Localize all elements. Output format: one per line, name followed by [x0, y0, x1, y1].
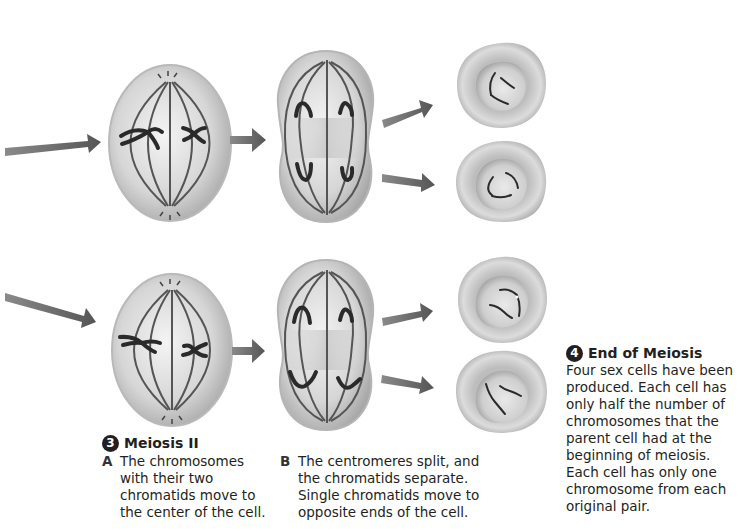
- arrow-top-2b: [382, 173, 435, 192]
- arrow-bottom-2a: [382, 303, 433, 326]
- incoming-arrow-bottom: [5, 293, 96, 328]
- step3-block: 3 Meiosis II A The chromosomes with thei…: [102, 435, 272, 521]
- text-line: parent cell had at the: [566, 430, 755, 447]
- text-line: opposite ends of the cell.: [298, 504, 479, 521]
- arrow-top-1: [230, 128, 266, 152]
- metaphase-cell-top: [109, 65, 231, 221]
- metaphase-cell-bottom: [112, 274, 232, 426]
- text-line: The chromosomes: [120, 453, 265, 470]
- step3b-description: B The centromeres split, and the chromat…: [280, 453, 490, 521]
- substep-letter-a: A: [102, 453, 120, 521]
- text-line: chromosomes that the: [566, 413, 755, 430]
- step4-heading: 4 End of Meiosis: [566, 345, 755, 362]
- text-line: Each cell has only one: [566, 464, 755, 481]
- text-line: produced. Each cell has: [566, 379, 755, 396]
- text-line: only half the number of: [566, 396, 755, 413]
- sex-cell-2: [456, 141, 546, 222]
- text-line: the chromatids separate.: [298, 470, 479, 487]
- text-line: Single chromatids move to: [298, 487, 479, 504]
- sex-cell-4: [456, 351, 547, 433]
- arrow-top-2a: [382, 100, 433, 128]
- text-line: The centromeres split, and: [298, 453, 479, 470]
- sex-cell-3: [458, 257, 547, 343]
- text-line: chromatids move to: [120, 487, 265, 504]
- step-number-badge: 4: [566, 345, 583, 362]
- step3b-block: B The centromeres split, and the chromat…: [280, 453, 490, 521]
- arrow-bottom-1: [232, 339, 265, 363]
- text-line: chromosome from each: [566, 481, 755, 498]
- text-line: original pair.: [566, 498, 755, 515]
- step4-title: End of Meiosis: [588, 345, 702, 362]
- anaphase-cell-bottom: [278, 260, 373, 430]
- text-line: with their two: [120, 470, 265, 487]
- step3a-description: A The chromosomes with their two chromat…: [102, 453, 272, 521]
- sex-cell-1: [457, 43, 546, 128]
- step3-heading: 3 Meiosis II: [102, 435, 272, 452]
- text-line: Four sex cells have been: [566, 362, 755, 379]
- step4-block: 4 End of Meiosis Four sex cells have bee…: [566, 345, 755, 515]
- anaphase-cell-top: [278, 51, 373, 222]
- step-number-badge: 3: [102, 435, 119, 452]
- arrow-bottom-2b: [381, 375, 434, 394]
- step3-title: Meiosis II: [124, 435, 199, 452]
- text-line: the center of the cell.: [120, 504, 265, 521]
- text-line: beginning of meiosis.: [566, 447, 755, 464]
- substep-letter-b: B: [280, 453, 298, 521]
- incoming-arrow-top: [5, 134, 101, 156]
- step4-description: Four sex cells have been produced. Each …: [566, 362, 755, 515]
